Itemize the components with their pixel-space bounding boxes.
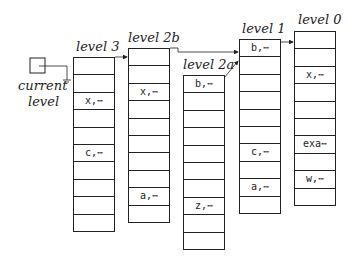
cell	[240, 57, 280, 74]
cell	[295, 49, 335, 66]
cell	[184, 163, 224, 180]
cell	[129, 136, 169, 153]
cell: b,⋯	[184, 76, 224, 93]
cell	[295, 102, 335, 119]
cell	[129, 153, 169, 170]
cell	[74, 128, 114, 145]
cell	[74, 110, 114, 127]
cell: c,⋯	[74, 145, 114, 162]
cell	[184, 233, 224, 250]
cell	[74, 197, 114, 214]
cell	[129, 49, 169, 66]
current-level-label-1: current	[18, 78, 67, 93]
cell	[74, 180, 114, 197]
cell	[184, 146, 224, 163]
level2b-column: x,⋯ a,⋯	[128, 48, 170, 223]
cell	[129, 119, 169, 136]
cell: w,⋯	[295, 171, 335, 188]
cell: b,⋯	[240, 40, 280, 57]
cell	[240, 162, 280, 179]
cell	[74, 75, 114, 92]
cell	[129, 66, 169, 83]
cell	[240, 110, 280, 127]
level1-column: b,⋯ c,⋯ a,⋯	[239, 39, 281, 214]
cell	[184, 215, 224, 232]
level3-column: x,⋯ c,⋯	[73, 57, 115, 232]
level0-column: x,⋯ exa⋯ w,⋯	[294, 31, 336, 206]
cell	[295, 32, 335, 49]
level1-label: level 1	[242, 21, 285, 36]
cell: x,⋯	[295, 67, 335, 84]
level2b-label: level 2b	[128, 30, 180, 45]
cell: exa⋯	[295, 136, 335, 153]
level3-label: level 3	[76, 39, 119, 54]
cell	[295, 189, 335, 206]
cell: a,⋯	[129, 188, 169, 205]
cell	[184, 111, 224, 128]
cell: a,⋯	[240, 179, 280, 196]
cell	[184, 180, 224, 197]
cell	[129, 206, 169, 223]
current-level-box	[30, 58, 45, 73]
cell	[295, 154, 335, 171]
cell	[184, 93, 224, 110]
level2a-column: b,⋯ z,⋯	[183, 75, 225, 250]
cell	[240, 197, 280, 214]
cell: c,⋯	[240, 144, 280, 161]
level0-label: level 0	[298, 12, 341, 27]
cell	[240, 127, 280, 144]
cell	[129, 171, 169, 188]
current-level-label-2: level	[28, 94, 59, 109]
cell: x,⋯	[74, 93, 114, 110]
cell	[74, 162, 114, 179]
cell	[295, 84, 335, 101]
cell: x,⋯	[129, 84, 169, 101]
cell	[74, 58, 114, 75]
cell	[295, 119, 335, 136]
cell	[129, 101, 169, 118]
cell	[240, 92, 280, 109]
cell	[184, 128, 224, 145]
level2a-label: level 2a	[183, 57, 234, 72]
cell	[74, 215, 114, 232]
cell	[240, 75, 280, 92]
cell: z,⋯	[184, 198, 224, 215]
